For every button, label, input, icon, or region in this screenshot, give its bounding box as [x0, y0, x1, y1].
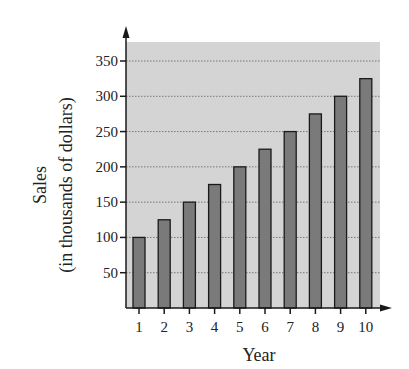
y-tick-label: 150 [96, 194, 119, 210]
x-tick-label: 4 [211, 319, 219, 335]
bar [259, 149, 271, 308]
y-tick-label: 350 [96, 53, 119, 69]
bar [234, 167, 246, 308]
bar [284, 132, 296, 308]
x-tick-label: 5 [236, 319, 244, 335]
x-axis-arrow-icon [380, 305, 392, 312]
x-axis-label: Year [242, 345, 275, 365]
x-axis-ticks: 12345678910 [135, 308, 373, 335]
x-tick-label: 3 [186, 319, 194, 335]
y-tick-label: 200 [96, 159, 119, 175]
x-tick-label: 1 [135, 319, 143, 335]
y-tick-label: 300 [96, 88, 119, 104]
x-tick-label: 9 [337, 319, 345, 335]
bar [309, 114, 321, 308]
bar [209, 185, 221, 309]
bar-chart: 50100150200250300350 12345678910 Year Sa… [0, 0, 409, 369]
bar [183, 202, 195, 308]
bar [335, 96, 347, 308]
y-tick-label: 100 [96, 229, 119, 245]
y-axis-arrow-icon [123, 26, 130, 38]
y-tick-label: 50 [103, 265, 118, 281]
y-axis-sublabel: (in thousands of dollars) [56, 97, 77, 272]
y-axis-ticks: 50100150200250300350 [96, 53, 127, 281]
x-tick-label: 7 [286, 319, 294, 335]
bar [158, 220, 170, 308]
y-axis-label: Sales [30, 166, 50, 204]
x-tick-label: 10 [358, 319, 373, 335]
bar [360, 79, 372, 308]
x-tick-label: 2 [160, 319, 168, 335]
y-tick-label: 250 [96, 124, 119, 140]
x-tick-label: 6 [261, 319, 269, 335]
x-tick-label: 8 [312, 319, 320, 335]
bar [133, 237, 145, 308]
